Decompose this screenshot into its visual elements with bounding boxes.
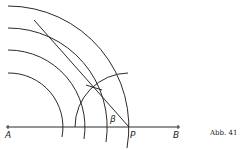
point-label-p: P [130, 130, 135, 140]
point-label-b: B [173, 130, 179, 140]
figure-caption: Abb. 41 [210, 129, 237, 137]
arc-3 [8, 50, 85, 139]
angle-label-beta: β [110, 114, 116, 124]
point-label-a: A [5, 130, 11, 140]
line-through-p [34, 20, 129, 127]
geometric-construction [0, 0, 247, 150]
